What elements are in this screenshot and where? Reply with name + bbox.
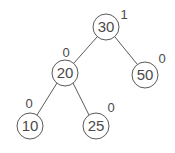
edge-20-25 xyxy=(73,83,89,115)
balance-factor-label: 0 xyxy=(62,45,69,60)
tree-node-30: 30 1 xyxy=(93,7,128,40)
tree-node-25: 25 0 xyxy=(83,100,115,139)
node-key: 10 xyxy=(22,117,39,134)
edge-30-20 xyxy=(74,37,97,63)
balance-factor-label: 0 xyxy=(107,100,114,115)
balance-factor-label: 0 xyxy=(158,51,165,66)
balance-factor-label: 1 xyxy=(120,7,127,22)
balance-factor-label: 0 xyxy=(25,96,32,111)
edge-20-10 xyxy=(37,83,57,115)
avl-tree-diagram: 30 1 20 0 50 0 10 0 25 0 xyxy=(0,0,175,153)
node-key: 20 xyxy=(57,64,74,81)
tree-node-50: 50 0 xyxy=(132,51,166,88)
node-key: 30 xyxy=(98,18,115,35)
tree-node-20: 20 0 xyxy=(52,45,78,86)
node-key: 50 xyxy=(137,66,154,83)
edge-30-50 xyxy=(115,37,137,64)
tree-node-10: 10 0 xyxy=(17,96,43,139)
node-key: 25 xyxy=(88,117,105,134)
